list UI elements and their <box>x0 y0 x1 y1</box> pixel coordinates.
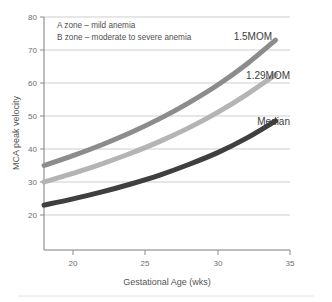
y-tick-label-40: 40 <box>28 145 37 154</box>
annotation-b-zone: B zone – moderate to severe anemia <box>57 33 192 42</box>
x-axis-tick-labels: 20 25 30 35 <box>69 259 295 268</box>
y-axis-tick-labels: 80 70 60 50 40 30 20 <box>28 13 37 220</box>
y-axis-title: MCA peak velocity <box>11 95 21 170</box>
series-label-median: Median <box>257 116 290 127</box>
y-tick-label-60: 60 <box>28 79 37 88</box>
y-tick-label-50: 50 <box>28 112 37 121</box>
x-tick-label-35: 35 <box>286 259 295 268</box>
series-label-1-29-mom: 1.29MOM <box>246 70 290 81</box>
y-tick-label-70: 70 <box>28 46 37 55</box>
chart-figure: 80 70 60 50 40 30 20 20 25 30 35 Gestati… <box>0 0 332 302</box>
x-tick-label-25: 25 <box>141 259 150 268</box>
series-label-1-5-mom: 1.5MOM <box>234 31 272 42</box>
series-curve-median <box>44 121 275 205</box>
x-tick-label-30: 30 <box>214 259 223 268</box>
series-curves <box>44 40 275 205</box>
series-curve-1-29-mom <box>44 75 275 182</box>
mca-peak-velocity-line-chart: 80 70 60 50 40 30 20 20 25 30 35 Gestati… <box>0 0 332 302</box>
zone-annotations: A zone – mild anemia B zone – moderate t… <box>57 21 192 42</box>
annotation-a-zone: A zone – mild anemia <box>57 21 136 30</box>
y-axis-ticks <box>40 17 44 215</box>
x-axis-ticks <box>73 250 290 255</box>
y-tick-label-80: 80 <box>28 13 37 22</box>
x-tick-label-20: 20 <box>69 259 78 268</box>
series-labels: 1.5MOM 1.29MOM Median <box>234 31 290 127</box>
x-axis-title: Gestational Age (wks) <box>123 277 211 287</box>
y-tick-label-20: 20 <box>28 211 37 220</box>
y-tick-label-30: 30 <box>28 178 37 187</box>
series-curve-1-5-mom <box>44 40 275 165</box>
